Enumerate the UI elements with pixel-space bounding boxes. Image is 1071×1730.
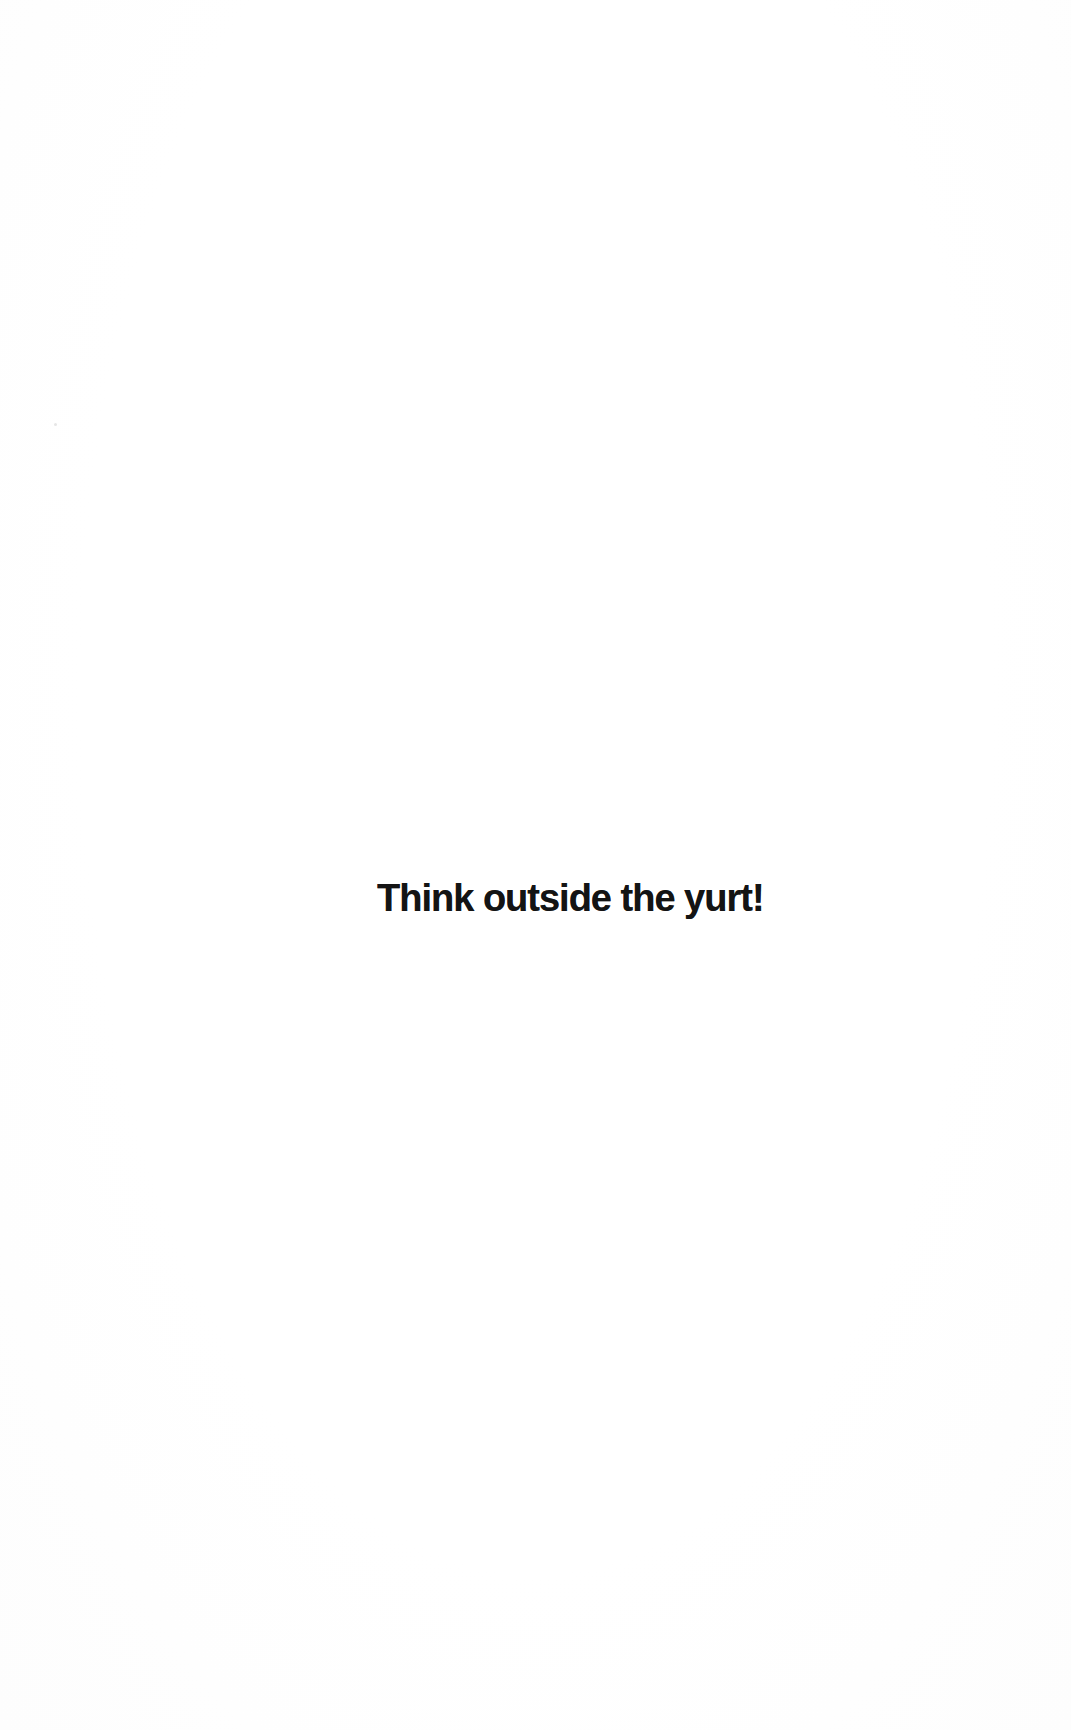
scan-speck	[54, 423, 57, 426]
scanned-book-page: Think outside the yurt!	[0, 0, 1071, 1730]
quote-text: Think outside the yurt!	[377, 877, 764, 921]
